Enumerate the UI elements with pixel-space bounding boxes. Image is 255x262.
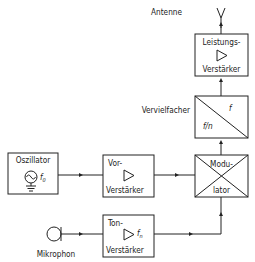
ground-icon [26, 183, 36, 191]
frequency-multiplier-label: Vervielfacher [142, 105, 191, 115]
modulator-label-1: Modu- [210, 159, 233, 169]
amplifier-triangle-icon [124, 170, 134, 181]
audio-amplifier-label-2: Verstärker [106, 245, 145, 255]
amplifier-triangle-icon [124, 229, 134, 240]
power-amplifier-label-2: Verstärker [203, 64, 242, 74]
transmitter-block-diagram: Antenne Leistungs- Verstärker Vervielfac… [0, 0, 255, 262]
multiplier-input-freq: f/n [203, 121, 213, 131]
oscillator-block: Oszillator f0 [8, 153, 58, 194]
pre-amplifier-block: Vor- Verstärker [103, 155, 154, 197]
antenna-label: Antenne [151, 7, 182, 17]
modulator-label-2: lator [213, 185, 231, 195]
modulator-block: Modu- lator [195, 155, 248, 197]
audio-amplifier-label-1: Ton- [107, 218, 123, 228]
multiplier-output-freq: f [229, 103, 233, 113]
antenna: Antenne [151, 7, 225, 28]
frequency-multiplier-block: Vervielfacher f f/n [142, 96, 248, 138]
microphone: Mikrophon [37, 227, 76, 259]
pre-amplifier-label-2: Verstärker [106, 185, 145, 195]
power-amplifier-label-1: Leistungs- [203, 37, 241, 47]
microphone-icon [47, 227, 61, 241]
power-amplifier-block: Leistungs- Verstärker [195, 34, 248, 76]
microphone-label: Mikrophon [37, 249, 76, 259]
oscillator-label: Oszillator [16, 155, 52, 165]
pre-amplifier-label-1: Vor- [108, 158, 122, 168]
sine-wave-icon [27, 175, 36, 179]
amplifier-triangle-icon [217, 50, 227, 61]
diagonal-divider-icon [195, 96, 248, 138]
audio-amplifier-block: Ton- fn Verstärker [103, 215, 154, 257]
oscillator-freq: f0 [40, 172, 46, 183]
audio-amplifier-freq: fn [137, 228, 143, 239]
